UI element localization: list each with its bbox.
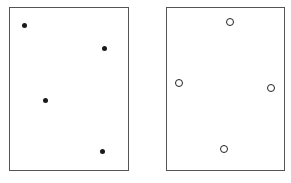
- hollow-circle-icon: [267, 84, 275, 92]
- hollow-circle-icon: [175, 79, 183, 87]
- filled-dot-icon: [22, 23, 27, 28]
- filled-dot-icon: [102, 46, 107, 51]
- filled-dot-icon: [100, 149, 105, 154]
- filled-dot-icon: [43, 98, 48, 103]
- hollow-circle-icon: [226, 18, 234, 26]
- hollow-circle-icon: [220, 145, 228, 153]
- left-panel: [9, 7, 129, 171]
